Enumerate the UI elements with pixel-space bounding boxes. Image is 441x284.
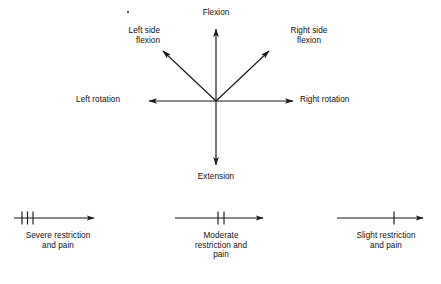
label-right-side-flexion: Right side flexion: [270, 26, 348, 45]
ray-right-side-flexion: [216, 51, 269, 101]
ray-left-side-flexion: [163, 51, 216, 101]
scale-slight: [337, 212, 423, 225]
label-left-rotation: Left rotation: [20, 95, 120, 105]
label-left-side-flexion: Left side flexion: [88, 26, 160, 45]
scale-severe: [14, 212, 94, 225]
caption-severe-restriction: Severe restriction and pain: [2, 231, 114, 250]
label-flexion: Flexion: [176, 8, 256, 18]
label-extension: Extension: [176, 172, 256, 182]
scan-speck-artifact: [127, 11, 129, 13]
caption-slight-restriction: Slight restriction and pain: [330, 231, 441, 250]
caption-moderate-restriction: Moderate restriction and pain: [165, 231, 277, 260]
severity-scales: [14, 212, 423, 225]
star-rays: [149, 29, 293, 165]
label-right-rotation: Right rotation: [300, 95, 410, 105]
figure-canvas: Flexion Extension Left rotation Right ro…: [0, 0, 441, 284]
scale-moderate: [175, 212, 263, 225]
